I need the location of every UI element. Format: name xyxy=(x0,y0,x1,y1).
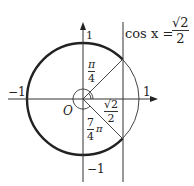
angle-label-pi-over-4: π 4 xyxy=(88,59,95,84)
seven-fourths-numerator: 7 xyxy=(87,117,94,128)
angle-label-7-over-4-pi: 7 4 xyxy=(87,117,94,142)
equation-fraction: √2 2 xyxy=(172,16,189,45)
angle-arc-pi-over-4 xyxy=(89,93,91,99)
label-x-right: 1 xyxy=(143,86,151,98)
label-y-top: 1 xyxy=(86,30,93,41)
x-axis-arrow-icon xyxy=(150,96,158,102)
label-x-left: −1 xyxy=(8,86,26,98)
pi-over-4-denominator: 4 xyxy=(88,73,95,84)
segment-label-root2-over-2: √2 2 xyxy=(104,99,118,124)
equation-lhs: cos x = xyxy=(125,27,173,40)
unit-circle-diagram: cos x = √2 2 1 −1 1 O −1 π 4 √2 2 7 4 π xyxy=(0,0,194,186)
segment-numerator: √2 xyxy=(104,99,118,110)
pi-over-4-numerator: π xyxy=(88,59,95,70)
equation-denominator: 2 xyxy=(176,32,184,45)
segment-denominator: 2 xyxy=(108,113,115,124)
label-y-bottom: −1 xyxy=(87,163,105,175)
label-origin: O xyxy=(63,105,73,117)
seven-fourths-pi-suffix: π xyxy=(96,124,103,134)
seven-fourths-denominator: 4 xyxy=(87,131,94,142)
equation-lhs-text: cos x = xyxy=(125,26,173,41)
equation-numerator: √2 xyxy=(172,16,189,29)
